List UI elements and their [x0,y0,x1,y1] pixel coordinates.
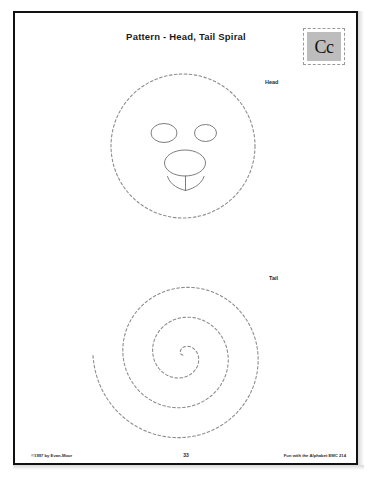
paper-edge-shade-bottom [13,465,364,470]
paper-edge-shade-right [358,11,364,469]
label-head: Head [265,79,278,85]
right-eye-icon [195,125,217,142]
nose-snout-icon [165,150,206,176]
label-tail: Tail [269,275,278,281]
mouth-left-arc [168,177,186,191]
left-eye-icon [151,124,177,143]
footer-source: Fun with the Alphabet EMC 214 [284,453,346,458]
pattern-artwork [13,11,358,465]
mouth-right-arc [186,177,205,191]
head-circle-dashed [111,74,255,218]
tail-spiral-dashed [93,287,258,437]
worksheet-page: Pattern - Head, Tail Spiral Cc Head Tail… [0,0,372,477]
